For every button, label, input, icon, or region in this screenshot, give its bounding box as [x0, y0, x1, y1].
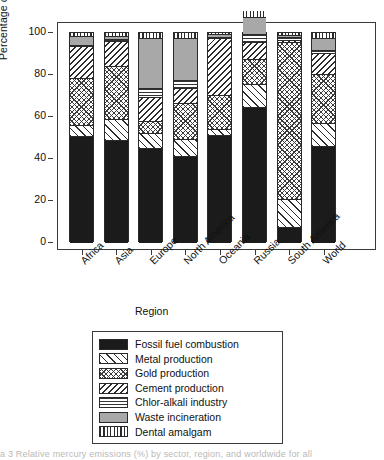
- x-axis-title: Region: [135, 305, 168, 317]
- bar-segment-gold-production: [208, 96, 231, 131]
- bar-segment-waste-incineration: [174, 39, 197, 81]
- legend-item[interactable]: Fossil fuel combustion: [99, 337, 276, 352]
- page-caption: a 3 Relative mercury emissions (%) by se…: [0, 449, 384, 460]
- legend-item[interactable]: Metal production: [99, 352, 276, 367]
- bar-segment-gold-production: [105, 67, 128, 120]
- bar-segment-dental-amalgam: [70, 33, 93, 37]
- y-tick-label: 20: [34, 193, 46, 205]
- bar-segment-chlor-alkali-industry: [70, 46, 93, 47]
- bar-europe[interactable]: [138, 32, 163, 243]
- y-tick-label: 0: [40, 235, 46, 247]
- bar-segment-gold-production: [278, 43, 301, 200]
- bar-russia[interactable]: [242, 32, 267, 243]
- bar-segment-gold-production: [243, 60, 266, 85]
- bar-segment-waste-incineration: [70, 37, 93, 46]
- bar-segment-cement-production: [208, 39, 231, 96]
- legend-item-label: Cement production: [135, 383, 224, 394]
- bar-segment-chlor-alkali-industry: [243, 35, 266, 43]
- bar-segment-dental-amalgam: [278, 33, 301, 36]
- legend-item-label: Waste incineration: [135, 412, 221, 423]
- bar-north-america[interactable]: [173, 32, 198, 243]
- bar-asia[interactable]: [104, 32, 129, 243]
- solid-gray-icon: [99, 412, 128, 423]
- solid-black-icon: [99, 339, 128, 350]
- bar-segment-dental-amalgam: [139, 33, 162, 39]
- bar-segment-metal-production: [174, 140, 197, 157]
- y-tick-label: 60: [34, 109, 46, 121]
- y-tick-mark: [48, 116, 53, 117]
- y-tick-mark: [48, 242, 53, 243]
- bar-segment-gold-production: [174, 104, 197, 140]
- bar-segment-cement-production: [70, 47, 93, 79]
- bar-segment-waste-incineration: [139, 39, 162, 90]
- y-tick: 80: [0, 74, 57, 75]
- legend-item[interactable]: Gold production: [99, 366, 276, 381]
- fine-crosshatch-icon: [99, 368, 128, 379]
- bar-segment-waste-incineration: [243, 18, 266, 35]
- bar-segment-fossil-fuel-combustion: [243, 108, 266, 243]
- bar-segment-metal-production: [208, 130, 231, 135]
- bar-segment-dental-amalgam: [243, 11, 266, 17]
- bar-segment-dental-amalgam: [105, 33, 128, 37]
- bar-segment-fossil-fuel-combustion: [139, 149, 162, 243]
- legend-item-label: Chlor-alkali industry: [135, 397, 227, 408]
- bar-segment-cement-production: [312, 54, 335, 75]
- bar-segment-gold-production: [312, 75, 335, 124]
- y-tick-label: 40: [34, 151, 46, 163]
- bar-segment-cement-production: [174, 89, 197, 104]
- bar-segment-chlor-alkali-industry: [105, 40, 128, 42]
- bar-south-america[interactable]: [277, 32, 302, 243]
- y-tick-label: 100: [28, 25, 46, 37]
- vertical-lines-icon: [99, 426, 128, 437]
- y-tick-mark: [48, 158, 53, 159]
- y-tick: 40: [0, 158, 57, 159]
- legend-item[interactable]: Chlor-alkali industry: [99, 395, 276, 410]
- bar-segment-metal-production: [70, 126, 93, 137]
- y-tick: 60: [0, 116, 57, 117]
- bar-segment-metal-production: [243, 85, 266, 108]
- bar-segment-metal-production: [278, 200, 301, 228]
- legend-item-label: Gold production: [135, 368, 209, 379]
- bar-segment-chlor-alkali-industry: [139, 89, 162, 97]
- y-tick: 0: [0, 242, 57, 243]
- bar-segment-chlor-alkali-industry: [312, 51, 335, 53]
- bar-segment-gold-production: [139, 122, 162, 134]
- y-tick-label: 80: [34, 67, 46, 79]
- diagonal-back-icon: [99, 383, 128, 394]
- legend-item-label: Fossil fuel combustion: [135, 339, 239, 350]
- bar-segment-waste-incineration: [208, 35, 231, 38]
- bar-segment-waste-incineration: [312, 39, 335, 52]
- legend-item-label: Metal production: [135, 354, 213, 365]
- bar-africa[interactable]: [69, 32, 94, 243]
- bar-segment-chlor-alkali-industry: [278, 38, 301, 41]
- legend-item[interactable]: Waste incineration: [99, 410, 276, 425]
- bar-segment-metal-production: [139, 134, 162, 150]
- figure: Percentage of total emissions 1008060402…: [0, 0, 384, 460]
- plot-area: [58, 23, 375, 243]
- bar-segment-gold-production: [70, 79, 93, 126]
- bar-segment-chlor-alkali-industry: [174, 81, 197, 89]
- bar-segment-metal-production: [105, 120, 128, 141]
- diagonal-forward-icon: [99, 353, 128, 364]
- y-axis-title: Percentage of total emissions: [0, 0, 9, 60]
- bar-segment-fossil-fuel-combustion: [70, 137, 93, 243]
- y-tick-mark: [48, 200, 53, 201]
- y-tick-mark: [48, 32, 53, 33]
- bar-segment-cement-production: [139, 98, 162, 122]
- bar-segment-metal-production: [312, 124, 335, 147]
- bar-segment-cement-production: [105, 42, 128, 67]
- legend: Fossil fuel combustionMetal productionGo…: [92, 331, 283, 444]
- bar-segment-chlor-alkali-industry: [208, 38, 231, 39]
- bar-segment-fossil-fuel-combustion: [105, 141, 128, 243]
- bar-segment-dental-amalgam: [312, 33, 335, 39]
- bar-segment-fossil-fuel-combustion: [278, 228, 301, 243]
- bar-segment-cement-production: [243, 43, 266, 60]
- legend-item-label: Dental amalgam: [135, 427, 211, 438]
- legend-item[interactable]: Dental amalgam: [99, 425, 276, 440]
- bar-segment-fossil-fuel-combustion: [174, 157, 197, 243]
- y-tick: 20: [0, 200, 57, 201]
- bar-segment-waste-incineration: [105, 37, 128, 40]
- bar-segment-cement-production: [278, 41, 301, 43]
- horizontal-lines-icon: [99, 397, 128, 408]
- legend-item[interactable]: Cement production: [99, 381, 276, 396]
